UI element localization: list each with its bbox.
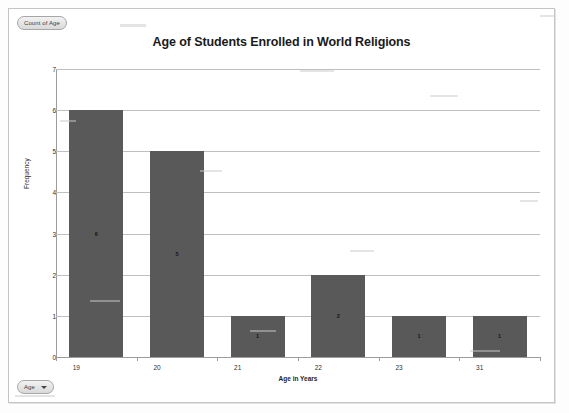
y-tick-label: 5 [42,148,56,155]
y-tick-label: 0 [42,354,56,361]
bar[interactable]: 6 [69,110,123,357]
x-tick-label: 31 [460,364,500,371]
bar-slot: 2 [298,69,379,357]
x-tick-label: 23 [379,364,419,371]
x-tick-label: 22 [298,364,338,371]
pivot-chart-frame: Count of Age Age of Students Enrolled in… [8,8,555,403]
y-tick-label: 2 [42,271,56,278]
x-tick-mark [298,357,299,361]
bar[interactable]: 1 [392,316,446,357]
bar-data-label: 6 [69,231,123,237]
bar[interactable]: 1 [231,316,285,357]
x-tick-label: 20 [137,364,177,371]
x-tick-label: 19 [56,364,96,371]
scan-artifact [60,120,76,122]
bar-data-label: 1 [231,333,285,339]
bar[interactable]: 2 [311,275,365,357]
plot-area: 651211 [56,69,540,357]
y-tick-label: 7 [42,66,56,73]
x-tick-mark [379,357,380,361]
scan-artifact [200,170,222,172]
bar-slot: 1 [459,69,540,357]
bar-slot: 6 [56,69,137,357]
x-tick-mark [56,357,57,361]
bar-data-label: 1 [392,333,446,339]
x-tick-mark [459,357,460,361]
x-tick-mark [217,357,218,361]
scan-artifact [300,70,334,72]
scan-artifact [15,395,55,397]
x-axis-title: Age in Years [56,375,540,382]
bar-slot: 1 [379,69,460,357]
scanned-page-background: Count of Age Age of Students Enrolled in… [0,0,569,413]
y-tick-label: 1 [42,312,56,319]
pivot-row-field-button[interactable]: Age [17,380,54,394]
x-tick-label: 21 [218,364,258,371]
pivot-value-field-button[interactable]: Count of Age [17,16,67,30]
y-tick-label: 3 [42,230,56,237]
x-tick-mark [540,357,541,361]
scan-artifact [520,200,538,202]
y-tick-label: 4 [42,189,56,196]
y-tick-label: 6 [42,107,56,114]
chart-title: Age of Students Enrolled in World Religi… [9,35,554,49]
bar-slot: 1 [217,69,298,357]
bar-slot: 5 [137,69,218,357]
scan-artifact [90,300,120,302]
x-tick-mark [137,357,138,361]
scan-artifact [540,15,554,17]
pivot-value-field-label: Count of Age [24,18,60,28]
chevron-down-icon[interactable] [41,386,47,389]
pivot-row-field-label: Age [24,382,35,392]
scan-artifact [250,330,276,332]
bar-data-label: 2 [311,313,365,319]
y-axis-title: Frequency [23,158,30,189]
bar-data-label: 1 [473,333,527,339]
bar-data-label: 5 [150,251,204,257]
scan-artifact [120,24,146,27]
scan-artifact [430,95,458,97]
y-axis-ticks: 01234567 [36,69,56,357]
scan-artifact [470,350,500,352]
scan-artifact [350,250,374,252]
bar[interactable]: 5 [150,151,204,357]
